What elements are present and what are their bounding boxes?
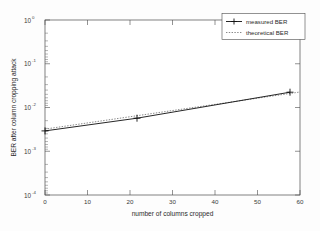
legend-label-theoretical: theoretical BER: [246, 29, 289, 36]
y-tick-exp-1e0: 0: [32, 15, 35, 20]
ber-cropping-line-chart: 10 0 10 -1 10 -2 10 -3 10 -4: [0, 0, 320, 231]
x-tick-label-20: 20: [127, 198, 134, 205]
plot-area-border: [45, 20, 300, 195]
y-tick-exp-1e-1: -1: [32, 58, 36, 63]
x-tick-labels: 0 10 20 30 40 50 60: [43, 198, 304, 205]
x-tick-label-50: 50: [254, 198, 261, 205]
y-tick-labels: 10 0 10 -1 10 -2 10 -3 10 -4: [24, 15, 37, 199]
y-tick-exp-1e-2: -2: [32, 102, 36, 107]
y-tick-label-1e0: 10: [24, 17, 32, 24]
x-tick-label-30: 30: [169, 198, 176, 205]
y-tick-exp-1e-3: -3: [32, 146, 36, 151]
y-tick-label-1e-4: 10: [24, 192, 32, 199]
y-axis-title: BER after column cropping attack: [10, 58, 18, 157]
x-tick-label-40: 40: [212, 198, 219, 205]
y-tick-label-1e-1: 10: [24, 60, 32, 67]
x-tick-label-0: 0: [43, 198, 47, 205]
y-tick-exp-1e-4: -4: [32, 190, 36, 195]
y-tick-label-1e-3: 10: [24, 148, 32, 155]
figure-canvas: 10 0 10 -1 10 -2 10 -3 10 -4: [0, 0, 320, 231]
plot-frame: [45, 20, 300, 195]
x-tick-label-60: 60: [297, 198, 304, 205]
legend-label-measured: measured BER: [246, 18, 288, 25]
chart-legend[interactable]: measured BER theoretical BER: [222, 14, 305, 40]
y-tick-label-1e-2: 10: [24, 104, 32, 111]
x-axis-title: number of columns cropped: [132, 210, 214, 218]
x-tick-label-10: 10: [84, 198, 91, 205]
